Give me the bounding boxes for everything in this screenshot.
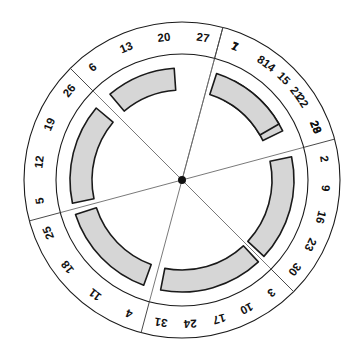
day-label-27: 27 bbox=[196, 31, 210, 45]
day-label-12: 12 bbox=[32, 155, 46, 169]
wheel-background bbox=[0, 0, 359, 353]
day-label-9: 9 bbox=[320, 185, 332, 192]
center-hub-dot bbox=[178, 176, 186, 184]
day-label-31: 31 bbox=[153, 315, 168, 329]
day-label-24: 24 bbox=[183, 317, 197, 330]
circular-day-wheel-diagram: 1815222929162330310172431411182551219266… bbox=[0, 0, 359, 353]
day-label-20: 20 bbox=[157, 30, 171, 44]
hub-group bbox=[178, 176, 186, 184]
canvas-background bbox=[0, 0, 359, 353]
